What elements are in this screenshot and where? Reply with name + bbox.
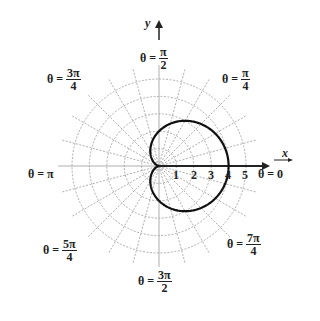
label-lhs: θ = [47, 72, 63, 87]
grid-radial-line [159, 69, 185, 166]
grid-radial-line [159, 95, 230, 166]
denominator: 4 [66, 251, 72, 263]
y-axis-arrow-icon [155, 20, 163, 28]
tick-4: 4 [225, 168, 231, 183]
label-theta-3pi-over-2: θ = 3π2 [138, 269, 172, 294]
denominator: 4 [242, 80, 248, 92]
label-lhs: θ = [258, 167, 274, 182]
grid-radial-line [62, 166, 159, 192]
grid-radial-line [62, 140, 159, 166]
denominator: 4 [70, 80, 76, 92]
label-lhs: θ = [138, 274, 154, 289]
label-theta-0: θ = 0 [258, 167, 283, 182]
tick-3: 3 [208, 168, 214, 183]
label-lhs: θ = [140, 51, 156, 66]
grid-radial-line [88, 95, 159, 166]
y-axis-label: y [145, 16, 150, 31]
grid-radial-line [133, 69, 159, 166]
fraction: 7π4 [246, 232, 261, 257]
fraction: π2 [159, 46, 168, 71]
grid-radial-line [72, 166, 159, 216]
label-theta-pi-over-4: θ = π4 [222, 67, 250, 92]
fraction: π4 [241, 67, 250, 92]
x-axis-label: x [282, 146, 288, 161]
label-lhs: θ = [43, 243, 59, 258]
grid-radial-line [88, 166, 159, 237]
label-value: 0 [277, 167, 283, 182]
fraction: 3π4 [66, 67, 81, 92]
grid-radial-line [159, 140, 256, 166]
label-theta-pi-over-2: θ = π2 [140, 46, 168, 71]
tick-1: 1 [173, 168, 179, 183]
label-theta-7pi-over-4: θ = 7π4 [227, 232, 261, 257]
label-lhs: θ = [222, 72, 238, 87]
label-lhs: θ = [28, 167, 44, 182]
tick-2: 2 [191, 168, 197, 183]
tick-5: 5 [242, 168, 248, 183]
grid-radial-line [159, 166, 209, 253]
label-value: π [47, 167, 54, 182]
label-theta-5pi-over-4: θ = 5π4 [43, 238, 77, 263]
fraction: 3π2 [157, 269, 172, 294]
grid-radial-line [159, 79, 209, 166]
label-lhs: θ = [227, 237, 243, 252]
denominator: 2 [161, 282, 167, 294]
theta-zero-arrow-icon [288, 158, 293, 162]
denominator: 2 [160, 59, 166, 71]
grid-radial-line [72, 116, 159, 166]
label-theta-pi: θ = π [28, 167, 54, 182]
denominator: 4 [250, 245, 256, 257]
grid-radial-line [133, 166, 159, 263]
label-theta-3pi-over-4: θ = 3π4 [47, 67, 81, 92]
fraction: 5π4 [62, 238, 77, 263]
